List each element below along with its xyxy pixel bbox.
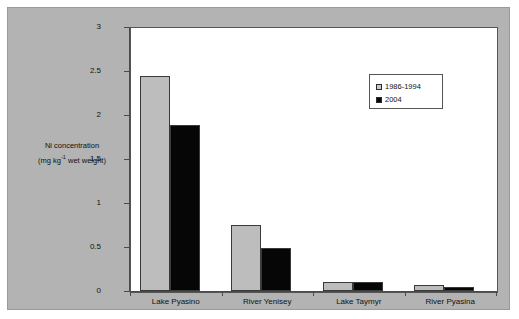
x-axis-tick	[222, 291, 223, 296]
y-axis-tick-label: 2	[97, 111, 101, 119]
bar-series1	[323, 282, 353, 291]
bar-series2	[170, 125, 200, 291]
y-axis-tick-label: 0	[97, 287, 101, 295]
bar-series1	[140, 76, 170, 291]
legend-item-2004: 2004	[376, 93, 442, 106]
y-axis-tick	[124, 71, 129, 72]
y-axis-tick-label: 1.5	[90, 155, 101, 163]
bar-series2	[444, 287, 474, 291]
y-axis-title-line2-prefix: (mg kg	[38, 155, 61, 164]
x-axis-tick	[496, 291, 497, 296]
y-axis-tick	[124, 159, 129, 160]
y-axis-tick	[124, 115, 129, 116]
legend-swatch-icon-1986-1994	[376, 84, 382, 90]
y-axis-tick-label: 3	[97, 23, 101, 31]
x-axis-tick	[130, 291, 131, 296]
y-axis-tick	[124, 27, 129, 28]
bar-series1	[231, 225, 261, 291]
legend-label-1986-1994: 1986-1994	[385, 82, 421, 91]
x-axis-category-label: River Yenisey	[222, 297, 312, 306]
x-axis-tick	[405, 291, 406, 296]
bar-series1	[414, 285, 444, 291]
y-axis-title: Ni concentration (mg kg-1 wet weight)	[26, 141, 118, 166]
bar-series2	[261, 248, 291, 291]
x-axis-category-label: River Pyasina	[405, 297, 495, 306]
legend-item-1986-1994: 1986-1994	[376, 80, 442, 93]
chart-figure: Ni concentration (mg kg-1 wet weight) 00…	[7, 7, 510, 310]
x-axis-category-label: Lake Pyasino	[131, 297, 221, 306]
chart-legend: 1986-1994 2004	[369, 74, 443, 109]
legend-label-2004: 2004	[385, 95, 402, 104]
legend-swatch-icon-2004	[376, 97, 382, 103]
y-axis-line	[129, 27, 130, 292]
y-axis-tick	[124, 291, 129, 292]
y-axis-tick-label: 1	[97, 199, 101, 207]
y-axis-tick	[124, 247, 129, 248]
bar-series2	[353, 282, 383, 291]
y-axis-tick	[124, 203, 129, 204]
y-axis-tick-label: 0.5	[90, 243, 101, 251]
y-axis-tick-label: 2.5	[90, 67, 101, 75]
x-axis-category-label: Lake Taymyr	[314, 297, 404, 306]
x-axis-tick	[313, 291, 314, 296]
y-axis-title-line1: Ni concentration	[45, 141, 99, 150]
